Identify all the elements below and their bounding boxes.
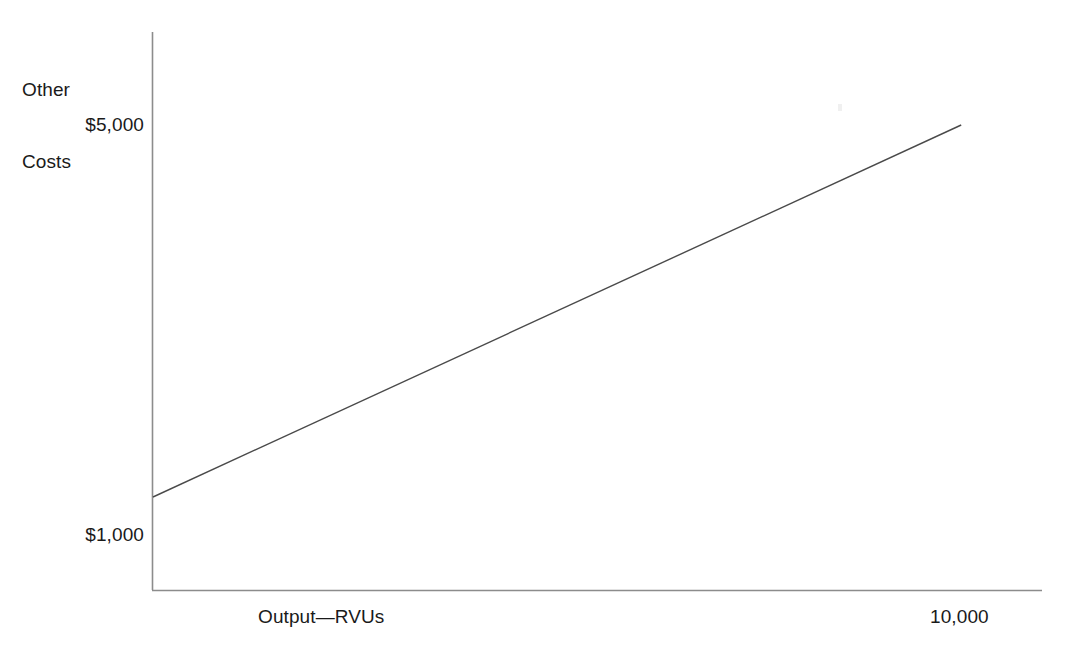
chart-figure: Other Costs $5,000 $1,000 Output—RVUs 10… bbox=[0, 0, 1070, 645]
data-line-other-costs bbox=[153, 125, 961, 497]
plot-area bbox=[0, 0, 1070, 645]
